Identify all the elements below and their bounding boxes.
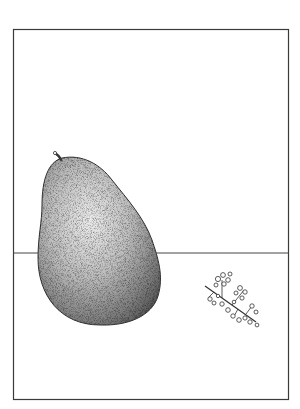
still-life-illustration	[0, 0, 300, 409]
pear	[30, 150, 170, 330]
sprig	[205, 272, 259, 327]
